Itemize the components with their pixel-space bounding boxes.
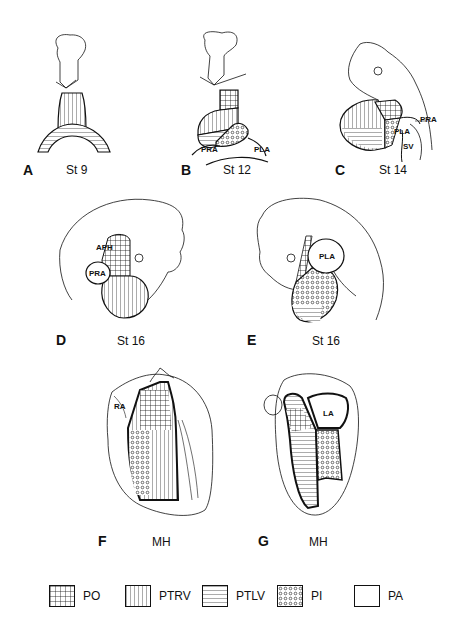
stage-caption-b: St 12 — [223, 163, 251, 177]
horizontal-lines-swatch-icon — [202, 585, 228, 607]
legend-item-pi: PI — [277, 583, 322, 609]
annotation-g-la: LA — [323, 409, 334, 418]
panel-a-drawing — [38, 35, 110, 152]
panel-f-drawing — [107, 368, 213, 515]
panel-d-drawing — [60, 199, 185, 318]
legend-label-ptlv: PTLV — [236, 589, 265, 603]
panel-label-d: D — [56, 332, 66, 348]
legend-label-po: PO — [83, 589, 100, 603]
panel-label-b: B — [181, 162, 191, 178]
panel-label-a: A — [23, 162, 33, 178]
circles-pattern-swatch-icon — [277, 585, 303, 607]
panel-c-drawing — [340, 42, 432, 162]
panel-label-e: E — [247, 332, 256, 348]
legend-item-ptrv: PTRV — [125, 583, 191, 609]
legend-label-pa: PA — [388, 589, 403, 603]
legend-item-po: PO — [49, 583, 100, 609]
legend-label-pi: PI — [311, 589, 322, 603]
diagram-canvas — [0, 0, 463, 634]
panel-label-c: C — [335, 162, 345, 178]
panel-g-drawing — [264, 374, 359, 515]
stage-caption-g: MH — [309, 535, 328, 549]
annotation-b-pla: PLA — [254, 145, 270, 154]
panel-label-g: G — [258, 533, 269, 549]
annotation-c-pra: PRA — [420, 115, 437, 124]
panel-label-f: F — [98, 533, 107, 549]
pattern-legend: PO PTRV PTLV PI PA — [0, 583, 463, 613]
legend-item-pa: PA — [354, 583, 403, 609]
vertical-lines-swatch-icon — [125, 585, 151, 607]
annotation-c-pla: PLA — [394, 127, 410, 136]
annotation-c-sv: SV — [403, 142, 414, 151]
stage-caption-a: St 9 — [66, 163, 87, 177]
stage-caption-c: St 14 — [379, 163, 407, 177]
annotation-f-ra: RA — [114, 402, 126, 411]
annotation-d-pra: PRA — [89, 269, 106, 278]
grid-pattern-swatch-icon — [49, 585, 75, 607]
stage-caption-e: St 16 — [312, 334, 340, 348]
stage-caption-f: MH — [152, 535, 171, 549]
annotation-e-pla: PLA — [319, 252, 335, 261]
blank-swatch-icon — [354, 585, 380, 607]
legend-item-ptlv: PTLV — [202, 583, 265, 609]
annotation-d-aph: APH — [96, 243, 113, 252]
legend-label-ptrv: PTRV — [159, 589, 191, 603]
stage-caption-d: St 16 — [117, 334, 145, 348]
annotation-b-pra: PRA — [201, 145, 218, 154]
